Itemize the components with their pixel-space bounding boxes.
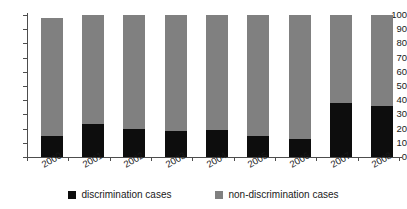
bar-segment-discrimination [371, 106, 393, 157]
legend-label: non-discrimination cases [228, 190, 338, 200]
bar-2007 [330, 15, 352, 157]
legend-swatch-icon [215, 191, 223, 199]
bar-segment-non-discrimination [289, 15, 311, 139]
x-axis-tick [316, 157, 317, 161]
legend-item: non-discrimination cases [215, 190, 338, 200]
bar-2005 [247, 15, 269, 157]
bar-2004 [206, 15, 228, 157]
legend-swatch-icon [68, 191, 76, 199]
x-axis-tick [399, 157, 400, 161]
plot-area [27, 15, 399, 157]
x-axis-tick [27, 157, 28, 161]
x-axis-tick [151, 157, 152, 161]
bar-2001 [82, 15, 104, 157]
chart-legend: discrimination casesnon-discrimination c… [0, 190, 407, 200]
bar-2000 [41, 18, 63, 157]
stacked-bar-chart: 1009080706050403020100 20002001200220032… [0, 0, 407, 209]
bar-segment-non-discrimination [165, 15, 187, 131]
bar-segment-non-discrimination [123, 15, 145, 129]
x-axis-tick [275, 157, 276, 161]
bar-segment-non-discrimination [41, 18, 63, 136]
bar-2006 [289, 15, 311, 157]
bar-segment-non-discrimination [371, 15, 393, 106]
bar-2002 [123, 15, 145, 157]
legend-label: discrimination cases [81, 190, 171, 200]
x-axis-tick [110, 157, 111, 161]
bar-segment-non-discrimination [206, 15, 228, 130]
x-axis-tick [358, 157, 359, 161]
bar-2008 [371, 15, 393, 157]
x-axis-tick [192, 157, 193, 161]
bar-segment-non-discrimination [330, 15, 352, 103]
bar-segment-discrimination [330, 103, 352, 157]
bar-2003 [165, 15, 187, 157]
x-axis-tick [68, 157, 69, 161]
bar-segment-non-discrimination [82, 15, 104, 124]
legend-item: discrimination cases [68, 190, 171, 200]
bar-segment-non-discrimination [247, 15, 269, 136]
x-axis-tick [234, 157, 235, 161]
